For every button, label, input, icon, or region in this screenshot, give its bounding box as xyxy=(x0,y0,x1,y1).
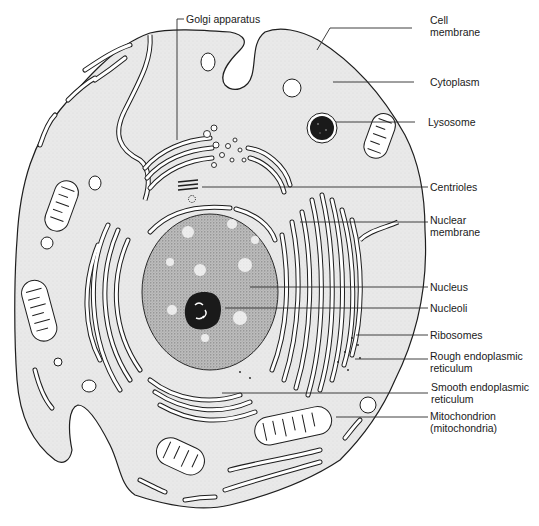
label-smooth-er-line2: reticulum xyxy=(431,393,529,405)
label-nucleoli: Nucleoli xyxy=(430,302,467,314)
label-nuclear-membrane-line2: membrane xyxy=(430,226,480,238)
label-mitochondrion-line2: (mitochondria) xyxy=(430,422,497,434)
label-nucleus: Nucleus xyxy=(430,281,468,293)
label-smooth-er-line1: Smooth endoplasmic xyxy=(431,381,529,393)
label-cell-membrane-line1: Cell xyxy=(430,14,480,26)
label-cell-membrane: Cell membrane xyxy=(430,14,480,38)
label-mitochondrion: Mitochondrion (mitochondria) xyxy=(430,410,497,434)
label-rough-er-line1: Rough endoplasmic xyxy=(430,350,523,362)
label-rough-er-line2: reticulum xyxy=(430,362,523,374)
label-cell-membrane-line2: membrane xyxy=(430,26,480,38)
label-ribosomes: Ribosomes xyxy=(430,329,483,341)
label-mitochondrion-line1: Mitochondrion xyxy=(430,410,497,422)
label-centrioles: Centrioles xyxy=(430,181,477,193)
label-smooth-er: Smooth endoplasmic reticulum xyxy=(431,381,529,405)
label-cytoplasm: Cytoplasm xyxy=(430,76,480,88)
lysosome xyxy=(307,113,337,143)
nucleolus xyxy=(185,292,221,329)
label-golgi-apparatus: Golgi apparatus xyxy=(186,13,260,25)
label-nuclear-membrane-line1: Nuclear xyxy=(430,214,480,226)
label-lysosome: Lysosome xyxy=(428,116,475,128)
label-rough-er: Rough endoplasmic reticulum xyxy=(430,350,523,374)
label-nuclear-membrane: Nuclear membrane xyxy=(430,214,480,238)
